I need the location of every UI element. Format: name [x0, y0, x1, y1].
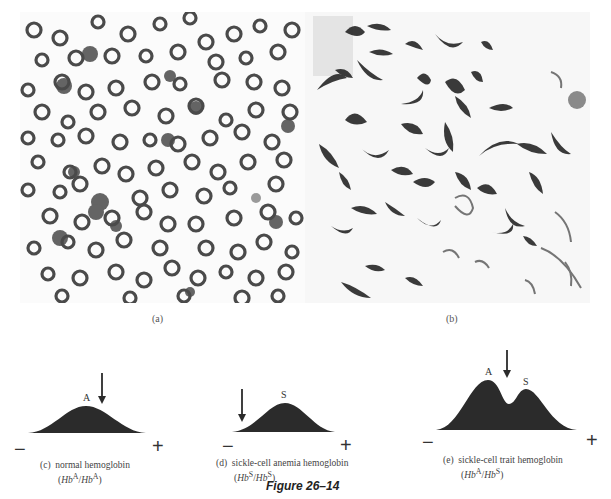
peak-label-s: S: [523, 376, 529, 387]
curve-normal-hemoglobin: [28, 406, 146, 433]
minus-sign: −: [14, 439, 26, 459]
plus-sign: +: [586, 430, 598, 450]
arrow-icon: [98, 396, 106, 404]
electrophoresis-plot-c: A − +: [0, 360, 200, 470]
peak-label-a: A: [485, 366, 492, 377]
arrow-icon: [503, 370, 511, 378]
genotype-e: (HbA/HbS): [461, 470, 503, 480]
curve-sickle-anemia-hemoglobin: [232, 403, 335, 432]
caption-e: (e) sickle-cell trait hemoglobin (HbA/Hb…: [443, 455, 563, 481]
arrow-icon: [238, 414, 246, 422]
electrophoresis-plot-d: S − +: [200, 360, 400, 470]
peak-label-a: A: [83, 392, 90, 403]
panel-label-a: (a): [152, 313, 163, 324]
plus-sign: +: [340, 435, 352, 455]
minus-sign: −: [422, 432, 434, 452]
genotype-c: (HbA/HbA): [58, 475, 102, 485]
electrophoresis-plot-e: A S − +: [400, 350, 611, 470]
plus-sign: +: [152, 436, 164, 456]
normal-cells-image: [20, 12, 305, 303]
sickle-cells-image: [305, 12, 590, 303]
curve-sickle-trait-hemoglobin: [436, 380, 577, 430]
micrograph-sickle-cells: [305, 12, 590, 303]
minus-sign: −: [222, 436, 234, 456]
panel-label-b: (b): [446, 313, 458, 324]
peak-label-s: S: [281, 389, 287, 400]
figure-title: Figure 26–14: [266, 479, 339, 493]
micrograph-normal-cells: [20, 12, 305, 303]
caption-c: (c) normal hemoglobin (HbA/HbA): [40, 460, 130, 486]
